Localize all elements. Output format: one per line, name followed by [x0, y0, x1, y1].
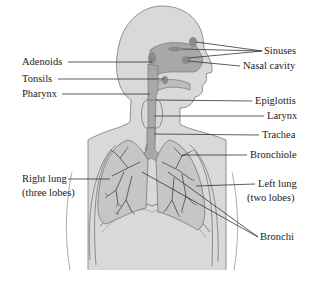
label-sinuses: Sinuses: [264, 45, 296, 57]
label-left-lung-note: (two lobes): [247, 192, 295, 204]
chest-outline-right: [232, 172, 238, 270]
label-bronchi: Bronchi: [260, 231, 294, 243]
label-pharynx: Pharynx: [22, 88, 57, 100]
label-right-lung-note: (three lobes): [22, 187, 75, 199]
sinus-maxillary: [182, 56, 190, 64]
label-adenoids: Adenoids: [22, 56, 62, 68]
label-bronchiole: Bronchiole: [250, 149, 297, 161]
label-epiglottis: Epiglottis: [255, 95, 296, 107]
label-right-lung: Right lung: [22, 173, 67, 185]
sinus-sphenoid: [168, 47, 182, 52]
sinus-frontal: [189, 37, 197, 47]
tonsil-shape: [162, 76, 168, 84]
label-tonsils: Tonsils: [22, 73, 52, 85]
label-larynx: Larynx: [267, 110, 297, 122]
label-nasal-cavity: Nasal cavity: [243, 60, 295, 72]
label-left-lung: Left lung: [258, 178, 297, 190]
label-trachea: Trachea: [262, 129, 295, 141]
